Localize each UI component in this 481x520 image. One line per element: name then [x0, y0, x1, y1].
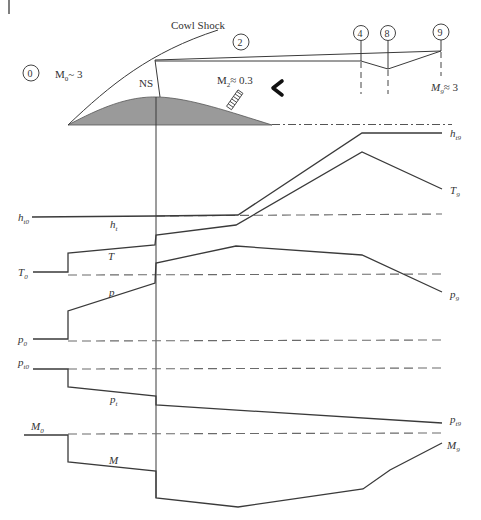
throat-mach: M2≈ 0.3: [217, 74, 253, 89]
cowl-shock-label: Cowl Shock: [171, 19, 226, 31]
pt-right-label: pt9: [449, 413, 461, 428]
station-9-label: 9: [438, 27, 443, 38]
station-4-label: 4: [358, 28, 363, 39]
ht-right-label: ht9: [450, 127, 461, 142]
pt-curve: [33, 369, 442, 423]
trace-total-pressure: pt0 pt pt9: [17, 356, 461, 428]
T-curve: [33, 152, 442, 272]
p-right-label: p9: [449, 288, 460, 303]
cowl-outer: [155, 51, 441, 60]
ht-left-label: ht0: [18, 211, 29, 226]
centerbody: [68, 97, 272, 125]
exit-mach: M9≈ 3: [430, 81, 458, 96]
nozzle-contour: [361, 51, 441, 69]
trace-total-enthalpy: ht0 ht ht9: [18, 127, 461, 233]
T-left-label: T0: [18, 266, 28, 281]
T-right-label: T9: [450, 184, 460, 199]
freestream-mach: M0~ 3: [55, 68, 83, 83]
M-left-label: M0: [30, 420, 44, 435]
M-mid-label: M: [108, 454, 119, 466]
station-0-label: 0: [28, 68, 33, 79]
p-left-label: p0: [17, 333, 28, 348]
station-2-label: 2: [238, 37, 243, 48]
trace-pressure: p0 p p9: [17, 246, 460, 348]
p-mid-label: p: [108, 286, 115, 298]
ht-mid-label: ht: [110, 218, 119, 233]
M-right-label: M9: [446, 439, 460, 454]
pt-mid-label: pt: [109, 393, 119, 408]
M-curve: [24, 435, 442, 507]
normal-shock-label: NS: [139, 77, 153, 89]
ramjet-flow-diagram: Cowl Shock NS 0 M0~ 3 2 M2≈ 0.3: [0, 0, 481, 520]
inlet-sketch: Cowl Shock NS 0 M0~ 3 2 M2≈ 0.3: [23, 19, 458, 125]
p-curve: [33, 246, 442, 339]
bleed-strut: [227, 90, 243, 110]
T-mid-label: T: [108, 250, 115, 262]
pt-reference: [68, 368, 442, 369]
ht-curve: [32, 133, 442, 217]
trace-mach: M0 M M9: [24, 420, 460, 507]
p-reference: [68, 340, 442, 341]
M-reference: [68, 433, 442, 434]
pt-left-label: pt0: [17, 356, 29, 371]
station-8-label: 8: [385, 28, 390, 39]
T-reference: [68, 274, 442, 275]
normal-shock: [155, 60, 160, 97]
flow-direction-chevron-icon: [273, 81, 282, 95]
